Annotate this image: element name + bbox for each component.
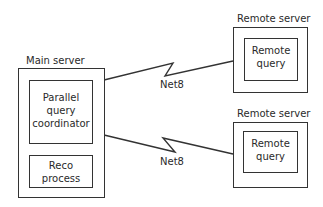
remote-server-2-label: Remote server xyxy=(237,108,310,120)
remote-query-2-box: Remote query xyxy=(243,131,298,173)
remote-query-1-box: Remote query xyxy=(244,38,298,81)
reco-line1: Reco xyxy=(30,159,92,172)
coordinator-line1: Parallel xyxy=(30,91,92,104)
remote-query-2-line1: Remote xyxy=(244,137,297,150)
net8-link-top xyxy=(104,61,233,80)
remote-query-2-line2: query xyxy=(244,150,297,163)
net8-label-bottom: Net8 xyxy=(160,156,184,168)
parallel-query-coordinator-box: Parallel query coordinator xyxy=(29,80,93,144)
coordinator-line2: query xyxy=(30,104,92,117)
remote-query-1-line1: Remote xyxy=(245,44,297,57)
reco-process-box: Reco process xyxy=(29,155,93,188)
reco-line2: process xyxy=(30,172,92,185)
net8-label-top: Net8 xyxy=(160,79,184,91)
coordinator-line3: coordinator xyxy=(30,117,92,130)
remote-server-1-label: Remote server xyxy=(237,13,310,25)
remote-query-1-line2: query xyxy=(245,57,297,70)
net8-link-bottom xyxy=(104,135,233,154)
main-server-label: Main server xyxy=(26,55,85,67)
